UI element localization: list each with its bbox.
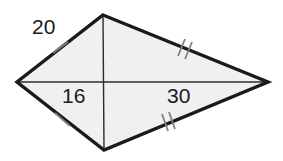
side-length-label-20: 20 (32, 16, 55, 37)
diagonal-segment-label-16: 16 (62, 85, 85, 106)
vertical-diagonal (103, 15, 104, 150)
diagonal-segment-label-30: 30 (167, 85, 190, 106)
